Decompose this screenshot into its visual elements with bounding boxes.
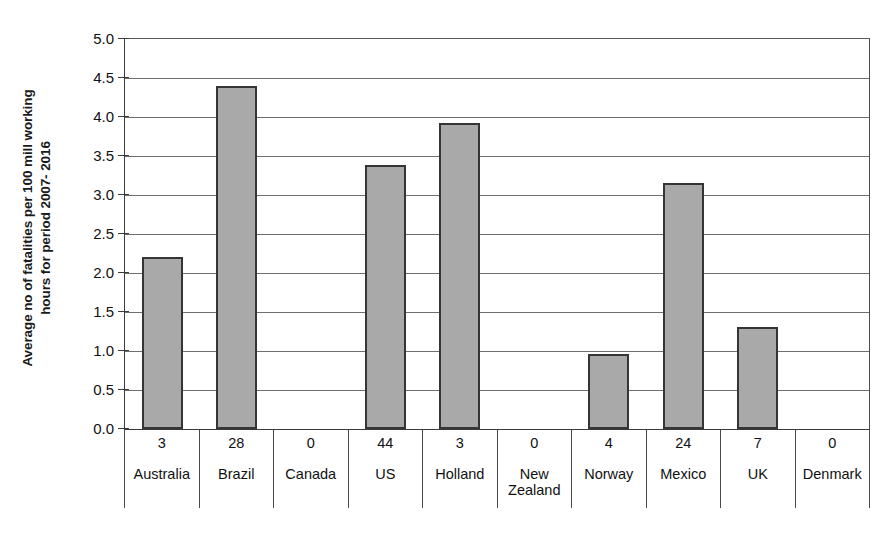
bar-cell xyxy=(348,39,422,429)
y-axis-tick-label: 1.5 xyxy=(62,304,114,319)
bar-cell xyxy=(423,39,497,429)
table-category-label: UK xyxy=(748,466,768,482)
table-category-label: Denmark xyxy=(803,466,862,482)
table-count-value: 3 xyxy=(456,436,464,451)
y-axis-tick-label: 3.0 xyxy=(62,187,114,202)
y-axis-tick-label: 2.0 xyxy=(62,265,114,280)
table-column: 4Norway xyxy=(571,430,646,508)
table-column: 3Australia xyxy=(124,430,199,508)
plot-area xyxy=(124,38,870,430)
y-axis-tick-mark xyxy=(118,389,129,390)
y-axis-tick-mark xyxy=(118,116,129,117)
table-category-label: Mexico xyxy=(660,466,706,482)
y-axis-tick-label: 0.0 xyxy=(62,421,114,436)
bar[interactable] xyxy=(365,165,406,429)
bar-cell xyxy=(720,39,794,429)
data-table: 3Australia28Brazil0Canada44US3Holland0Ne… xyxy=(124,430,870,508)
table-category-label: US xyxy=(375,466,395,482)
table-category-label: Holland xyxy=(435,466,484,482)
y-axis-tick-label: 4.0 xyxy=(62,109,114,124)
y-axis-tick-label: 3.5 xyxy=(62,148,114,163)
table-count-value: 0 xyxy=(828,436,836,451)
table-category-label: New Zealand xyxy=(498,466,572,498)
bar[interactable] xyxy=(737,327,778,429)
y-axis-tick-label: 0.5 xyxy=(62,382,114,397)
y-axis-tick-mark xyxy=(118,350,129,351)
y-axis-tick-label: 5.0 xyxy=(62,31,114,46)
table-column: 28Brazil xyxy=(199,430,274,508)
bar-cell xyxy=(199,39,273,429)
bar-cell xyxy=(571,39,645,429)
y-axis-tick-mark xyxy=(118,155,129,156)
bar[interactable] xyxy=(663,183,704,429)
table-column: 44US xyxy=(348,430,423,508)
y-axis-tick-label: 2.5 xyxy=(62,226,114,241)
y-axis-tick-label: 1.0 xyxy=(62,343,114,358)
table-column: 24Mexico xyxy=(646,430,721,508)
table-count-value: 0 xyxy=(307,436,315,451)
bar[interactable] xyxy=(142,257,183,429)
table-count-value: 7 xyxy=(754,436,762,451)
y-axis-tick-mark xyxy=(118,38,129,39)
bar-cell xyxy=(497,39,571,429)
table-category-label: Brazil xyxy=(218,466,254,482)
table-count-value: 24 xyxy=(675,436,691,451)
y-axis-tick-label: 4.5 xyxy=(62,70,114,85)
table-column: 0Canada xyxy=(273,430,348,508)
table-column: 3Holland xyxy=(422,430,497,508)
bar[interactable] xyxy=(216,86,257,429)
table-count-value: 28 xyxy=(228,436,244,451)
y-axis-tick-mark xyxy=(118,311,129,312)
y-axis-tick-labels: 5.04.54.03.53.02.52.01.51.00.50.0 xyxy=(62,28,114,428)
table-category-label: Canada xyxy=(285,466,336,482)
y-axis-tick-mark xyxy=(118,233,129,234)
bar-cell xyxy=(274,39,348,429)
y-axis-title-line-1: Average no of fatalities per 100 mill wo… xyxy=(19,89,37,366)
bar-series xyxy=(125,39,869,429)
table-count-value: 44 xyxy=(377,436,393,451)
table-category-label: Australia xyxy=(134,466,190,482)
table-column: 0Denmark xyxy=(795,430,871,508)
bar-cell xyxy=(646,39,720,429)
bar[interactable] xyxy=(588,354,629,429)
y-axis-tick-mark xyxy=(118,194,129,195)
y-axis-title-line-2: hours for period 2007- 2016 xyxy=(37,89,55,366)
table-count-value: 4 xyxy=(605,436,613,451)
bar-cell xyxy=(125,39,199,429)
y-axis-tick-mark xyxy=(118,272,129,273)
bar[interactable] xyxy=(439,123,480,429)
y-axis-tick-mark xyxy=(118,77,129,78)
y-axis-title: Average no of fatalities per 100 mill wo… xyxy=(14,28,60,428)
y-axis-tick-mark xyxy=(118,428,129,429)
table-category-label: Norway xyxy=(584,466,633,482)
table-column: 7UK xyxy=(720,430,795,508)
table-column: 0New Zealand xyxy=(497,430,572,508)
table-count-value: 3 xyxy=(158,436,166,451)
table-count-value: 0 xyxy=(530,436,538,451)
bar-chart-figure: Average no of fatalities per 100 mill wo… xyxy=(0,0,896,534)
bar-cell xyxy=(795,39,869,429)
